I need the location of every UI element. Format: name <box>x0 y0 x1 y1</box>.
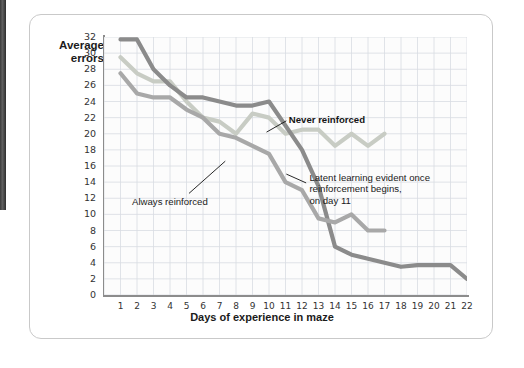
annotation-never-reinforced: Never reinforced <box>289 114 365 126</box>
x-axis-title: Days of experience in maze <box>30 311 494 323</box>
x-tick-9: 9 <box>245 301 261 311</box>
x-tick-14: 14 <box>327 301 343 311</box>
y-tick-22: 22 <box>74 112 96 123</box>
y-tick-20: 20 <box>74 128 96 139</box>
y-tick-32: 32 <box>74 31 96 42</box>
x-tick-15: 15 <box>344 301 360 311</box>
page-edge-strip <box>0 0 6 210</box>
y-tick-10: 10 <box>74 208 96 219</box>
y-tick-16: 16 <box>74 160 96 171</box>
y-tick-24: 24 <box>74 96 96 107</box>
plot-area <box>104 37 467 295</box>
x-tick-21: 21 <box>443 301 459 311</box>
y-tick-14: 14 <box>74 176 96 187</box>
annotation-latent-learning: Latent learning evident once reinforceme… <box>309 172 430 207</box>
x-tick-5: 5 <box>179 301 195 311</box>
x-tick-13: 13 <box>311 301 327 311</box>
y-tick-12: 12 <box>74 192 96 203</box>
x-tick-11: 11 <box>278 301 294 311</box>
y-tick-2: 2 <box>74 273 96 284</box>
chart-figure: Average errors 0246810121416182022242628… <box>30 15 494 340</box>
annotation-always-reinforced: Always reinforced <box>132 196 208 208</box>
x-tick-1: 1 <box>113 301 129 311</box>
x-tick-8: 8 <box>228 301 244 311</box>
y-tick-28: 28 <box>74 63 96 74</box>
x-tick-17: 17 <box>377 301 393 311</box>
y-tick-26: 26 <box>74 79 96 90</box>
x-tick-6: 6 <box>195 301 211 311</box>
x-tick-4: 4 <box>162 301 178 311</box>
x-tick-12: 12 <box>294 301 310 311</box>
x-tick-16: 16 <box>360 301 376 311</box>
x-tick-3: 3 <box>146 301 162 311</box>
x-tick-19: 19 <box>410 301 426 311</box>
x-tick-20: 20 <box>426 301 442 311</box>
y-tick-6: 6 <box>74 241 96 252</box>
x-tick-7: 7 <box>212 301 228 311</box>
y-tick-8: 8 <box>74 225 96 236</box>
y-tick-4: 4 <box>74 257 96 268</box>
figure-card: Average errors 0246810121416182022242628… <box>29 14 493 339</box>
x-tick-18: 18 <box>393 301 409 311</box>
y-tick-30: 30 <box>74 47 96 58</box>
x-tick-22: 22 <box>459 301 475 311</box>
plot-svg <box>104 37 467 295</box>
y-tick-18: 18 <box>74 144 96 155</box>
x-axis-spine <box>103 295 469 297</box>
y-tick-0: 0 <box>74 289 96 300</box>
x-tick-10: 10 <box>261 301 277 311</box>
x-tick-2: 2 <box>129 301 145 311</box>
